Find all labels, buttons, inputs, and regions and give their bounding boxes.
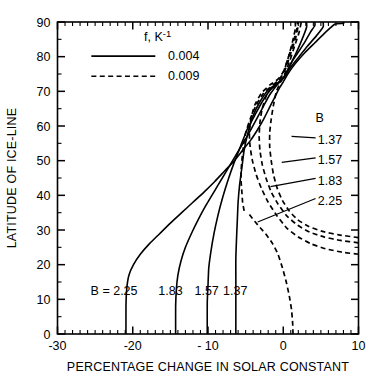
y-axis-title: LATITUDE OF ICE-LINE [5, 108, 19, 249]
x-axis-title: PERCENTAGE CHANGE IN SOLAR CONSTANT [67, 360, 349, 374]
y-tick-label: 60 [37, 120, 51, 134]
x-tick-label: - 10 [197, 339, 219, 353]
y-tick-label: 30 [37, 224, 51, 238]
legend-entry-label: 0.004 [168, 49, 199, 63]
b-value-label: 1.83 [318, 174, 342, 188]
bottom-curve-label: 1.37 [223, 284, 247, 298]
y-tick-label: 80 [37, 50, 51, 64]
y-tick-label: 0 [44, 328, 51, 342]
bottom-curve-label: 1.83 [158, 284, 182, 298]
bottom-curve-label: 1.57 [194, 284, 218, 298]
b-value-label: 1.57 [318, 153, 342, 167]
b-group-header: B [316, 111, 324, 125]
b-value-label: 2.25 [318, 194, 342, 208]
legend-entry-label: 0.009 [168, 69, 199, 83]
y-tick-label: 10 [37, 293, 51, 307]
x-tick-label: -20 [124, 339, 142, 353]
ice-line-chart: -30-20- 100100102030405060708090 B = 2.2… [0, 0, 387, 390]
y-tick-label: 40 [37, 189, 51, 203]
figure-container: -30-20- 100100102030405060708090 B = 2.2… [0, 0, 387, 390]
x-tick-label: -30 [48, 339, 66, 353]
y-tick-label: 50 [37, 154, 51, 168]
x-tick-label: 0 [280, 339, 287, 353]
y-tick-label: 90 [37, 16, 51, 30]
b-value-label: 1.37 [318, 133, 342, 147]
x-tick-label: 10 [352, 339, 366, 353]
y-tick-label: 70 [37, 85, 51, 99]
bottom-curve-label: B = 2.25 [91, 284, 138, 298]
y-tick-label: 20 [37, 258, 51, 272]
